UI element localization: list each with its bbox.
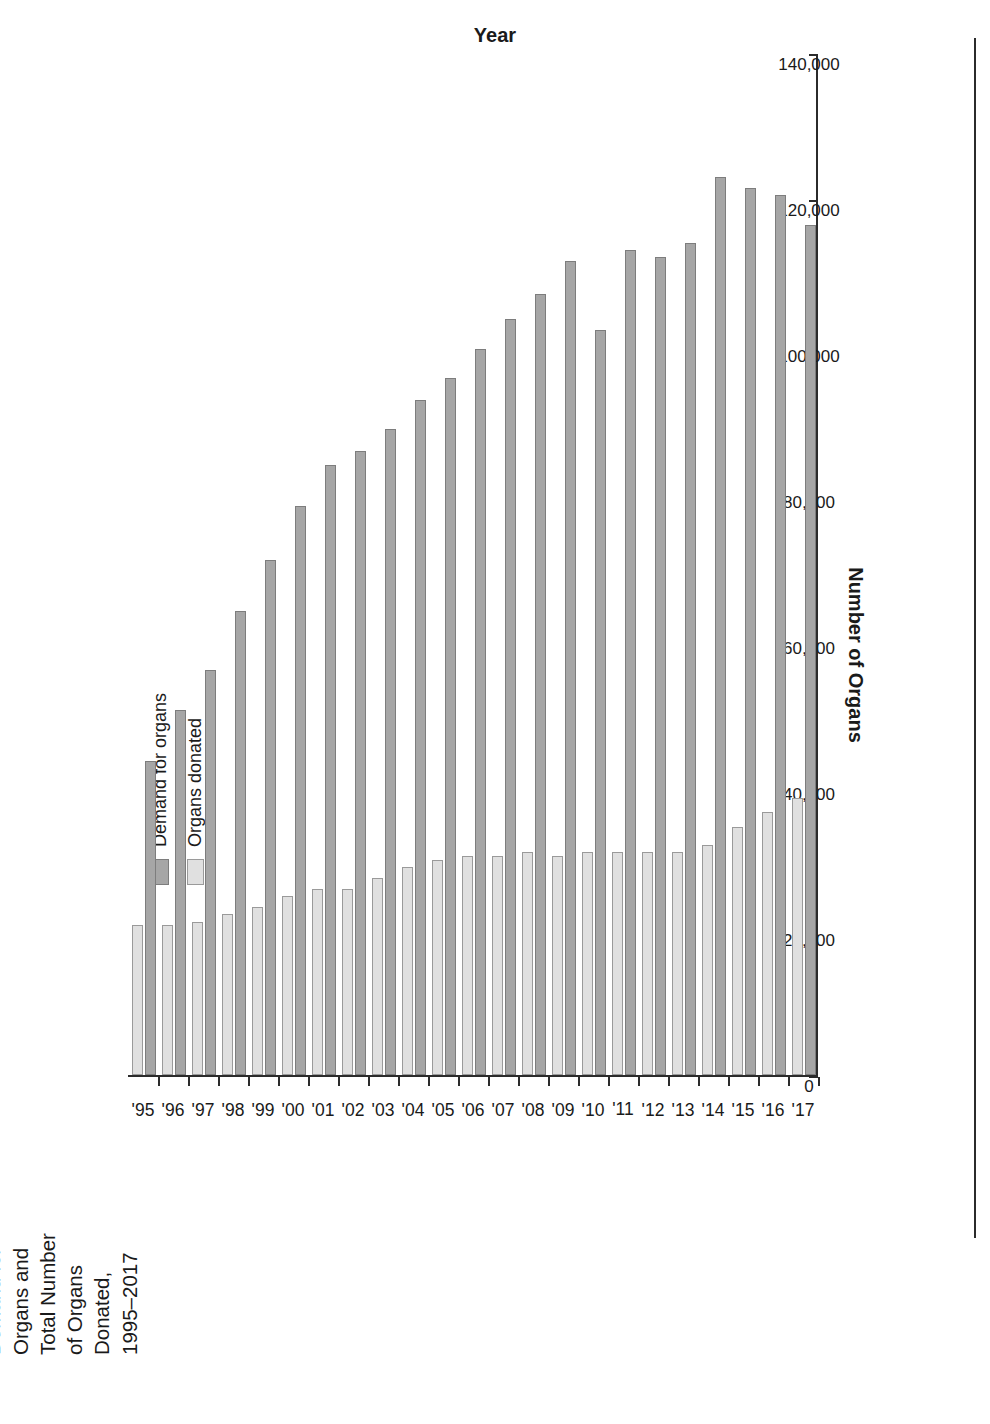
category-tick-label: '02 [342, 1100, 365, 1121]
bar-group [308, 53, 338, 1075]
bar-demand-for-organs [655, 257, 666, 1075]
category-tick-label: '12 [642, 1100, 665, 1121]
category-tick [188, 1077, 190, 1086]
category-tick-label: '00 [282, 1100, 305, 1121]
category-tick [608, 1077, 610, 1086]
exhibit-caption-line: Donated, [88, 1272, 115, 1355]
bar-group [518, 53, 548, 1075]
bar-demand-for-organs [475, 349, 486, 1075]
category-tick-label: '96 [162, 1100, 185, 1121]
bar-demand-for-organs [565, 261, 576, 1075]
category-tick-label: '97 [192, 1100, 215, 1121]
category-tick-label: '11 [612, 1099, 634, 1120]
category-tick [668, 1077, 670, 1086]
bar-demand-for-organs [325, 465, 336, 1075]
bar-group [248, 53, 278, 1075]
bar-demand-for-organs [235, 611, 246, 1075]
bar-demand-for-organs [415, 400, 426, 1075]
bar-group [158, 53, 188, 1075]
bar-organs-donated [132, 925, 143, 1075]
category-tick-label: '16 [762, 1100, 785, 1121]
category-tick [728, 1077, 730, 1086]
bar-organs-donated [462, 856, 473, 1075]
category-tick [548, 1077, 550, 1086]
bar-organs-donated [402, 867, 413, 1075]
bar-organs-donated [762, 812, 773, 1075]
bar-organs-donated [582, 852, 593, 1075]
category-tick-label: '14 [702, 1100, 725, 1121]
bar-demand-for-organs [355, 451, 366, 1075]
bar-group [338, 53, 368, 1075]
bar-organs-donated [702, 845, 713, 1075]
category-tick [578, 1077, 580, 1086]
bar-group [278, 53, 308, 1075]
category-tick-label: '17 [792, 1100, 815, 1121]
category-tick-label: '09 [552, 1100, 575, 1121]
bar-organs-donated [192, 922, 203, 1075]
bar-demand-for-organs [625, 250, 636, 1075]
category-tick-label: '10 [582, 1100, 605, 1121]
bar-organs-donated [222, 914, 233, 1075]
category-tick-label: '95 [132, 1100, 155, 1121]
category-tick [248, 1077, 250, 1086]
bar-chart: Demand for organsOrgans donated 020,0004… [110, 0, 880, 1215]
bar-organs-donated [252, 907, 263, 1075]
bar-demand-for-organs [595, 330, 606, 1075]
category-tick [518, 1077, 520, 1086]
bar-organs-donated [792, 798, 803, 1075]
bar-demand-for-organs [445, 378, 456, 1075]
category-tick [308, 1077, 310, 1086]
bar-demand-for-organs [535, 294, 546, 1075]
page-divider-rule [974, 38, 976, 1238]
bar-demand-for-organs [145, 761, 156, 1075]
bar-group [578, 53, 608, 1075]
bar-group [128, 53, 158, 1075]
bar-organs-donated [522, 852, 533, 1075]
category-tick [818, 1077, 820, 1086]
bar-demand-for-organs [385, 429, 396, 1075]
bar-group [428, 53, 458, 1075]
category-tick [698, 1077, 700, 1086]
bar-group [188, 53, 218, 1075]
bar-demand-for-organs [205, 670, 216, 1075]
plot-area: 020,00040,00060,00080,000100,000120,0001… [128, 55, 818, 1077]
bar-demand-for-organs [715, 177, 726, 1075]
category-axis-line [128, 1075, 818, 1077]
bar-group [788, 53, 818, 1075]
bar-demand-for-organs [175, 710, 186, 1075]
bar-demand-for-organs [505, 319, 516, 1075]
bar-organs-donated [642, 852, 653, 1075]
category-tick [338, 1077, 340, 1086]
bar-organs-donated [552, 856, 563, 1075]
bar-demand-for-organs [745, 188, 756, 1075]
exhibit-caption-line: Organs and [7, 1248, 34, 1355]
category-tick-label: '98 [222, 1100, 245, 1121]
category-tick-label: '07 [492, 1100, 515, 1121]
category-tick [638, 1077, 640, 1086]
category-tick [278, 1077, 280, 1086]
bar-demand-for-organs [295, 506, 306, 1075]
category-tick [158, 1077, 160, 1086]
bar-organs-donated [672, 852, 683, 1075]
category-tick [488, 1077, 490, 1086]
category-tick [758, 1077, 760, 1086]
bar-group [548, 53, 578, 1075]
category-tick-label: '03 [372, 1100, 395, 1121]
bar-demand-for-organs [685, 243, 696, 1075]
bar-organs-donated [732, 827, 743, 1075]
category-tick [218, 1077, 220, 1086]
bar-organs-donated [372, 878, 383, 1075]
bar-group [758, 53, 788, 1075]
bar-group [458, 53, 488, 1075]
value-tick-label: 0 [804, 1077, 813, 1097]
bar-organs-donated [432, 860, 443, 1075]
bar-organs-donated [492, 856, 503, 1075]
bar-organs-donated [342, 889, 353, 1075]
category-tick [458, 1077, 460, 1086]
bar-demand-for-organs [265, 560, 276, 1075]
bar-demand-for-organs [805, 225, 816, 1075]
bar-group [608, 53, 638, 1075]
category-tick [428, 1077, 430, 1086]
category-tick-label: '04 [402, 1100, 425, 1121]
category-tick-label: '05 [432, 1100, 455, 1121]
